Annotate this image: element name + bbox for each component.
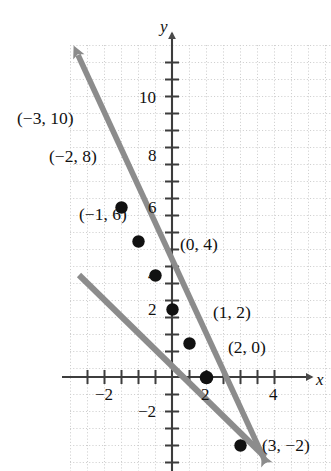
y-tick-label-4: 4 <box>148 267 157 284</box>
data-point <box>200 371 214 385</box>
data-point <box>234 439 246 451</box>
y-tick-label-6: 6 <box>148 199 157 216</box>
point-label-n1-6: (−1, 6) <box>79 206 127 224</box>
y-tick-label-10: 10 <box>139 89 156 106</box>
figure-root: y x 10 8 6 4 2 −2 −2 2 4 (−3, 10) (−2, 8… <box>0 0 331 471</box>
y-tick-label-8: 8 <box>148 147 157 164</box>
point-label-3-n2: (3, −2) <box>262 437 310 455</box>
x-axis-label: x <box>316 371 324 388</box>
point-label-n2-8: (−2, 8) <box>49 148 97 166</box>
y-tick-label-2: 2 <box>148 301 157 318</box>
point-label-n3-10: (−3, 10) <box>17 110 74 128</box>
point-label-0-4: (0, 4) <box>180 236 218 254</box>
point-label-2-0: (2, 0) <box>228 339 266 357</box>
y-tick-label-minus2: −2 <box>138 403 156 420</box>
data-point <box>183 337 195 349</box>
point-label-1-2: (1, 2) <box>213 304 251 322</box>
x-tick-label-4: 4 <box>269 386 278 403</box>
x-tick-label-2: 2 <box>201 386 210 403</box>
coordinate-plane-graph <box>0 0 331 471</box>
grid-lines <box>70 45 331 471</box>
y-axis-label: y <box>160 18 168 35</box>
data-point <box>166 303 178 315</box>
x-tick-label-minus2: −2 <box>95 386 113 403</box>
data-point <box>132 235 144 247</box>
